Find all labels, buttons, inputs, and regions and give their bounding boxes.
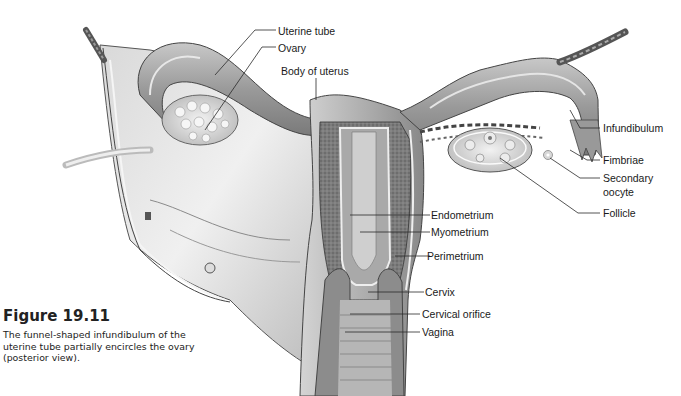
left-ovary [162, 95, 238, 145]
label-cervical-orifice: Cervical orifice [422, 308, 491, 320]
label-uterine-tube: Uterine tube [278, 25, 335, 37]
figure-caption: The funnel-shaped infundibulum of the ut… [3, 329, 203, 364]
right-ovary [448, 128, 532, 172]
secondary-oocyte [544, 151, 553, 160]
label-endometrium: Endometrium [431, 209, 493, 221]
label-cervix: Cervix [425, 286, 455, 298]
label-fimbriae: Fimbriae [603, 154, 644, 166]
label-perimetrium: Perimetrium [427, 250, 484, 262]
figure-number: Figure 19.11 [3, 307, 110, 325]
label-ovary: Ovary [278, 42, 306, 54]
label-body-of-uterus: Body of uterus [281, 65, 349, 77]
label-myometrium: Myometrium [431, 226, 489, 238]
label-secondary-oocyte-line1: Secondary [603, 172, 653, 184]
label-infundibulum: Infundibulum [603, 122, 663, 134]
uterus [300, 95, 424, 396]
label-follicle: Follicle [603, 207, 636, 219]
left-broad-ligament [100, 45, 316, 370]
ligament-attachment [205, 263, 215, 273]
label-secondary-oocyte-line2: oocyte [603, 186, 634, 198]
label-vagina: Vagina [422, 326, 454, 338]
